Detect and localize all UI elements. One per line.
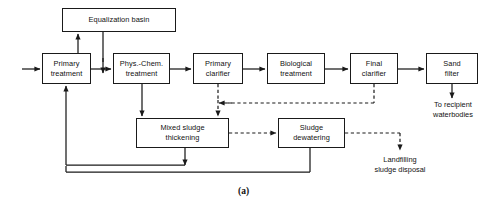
node-label-line: Phys.-Chem.: [120, 59, 163, 69]
node-label-line: dewatering: [293, 133, 330, 143]
node-label-line: clarifier: [362, 69, 386, 79]
figure-caption: (a): [238, 186, 249, 196]
node-biological-treatment[interactable]: Biological treatment: [267, 53, 325, 84]
node-label-line: Primary: [205, 59, 231, 69]
node-primary-clarifier[interactable]: Primary clarifier: [193, 53, 243, 84]
node-label-line: treatment: [51, 69, 83, 79]
node-primary-treatment[interactable]: Primary treatment: [42, 53, 91, 84]
process-flow-diagram: Equalization basin Primary treatment Phy…: [0, 0, 497, 210]
node-label-line: Sand: [443, 59, 460, 69]
node-label-line: Equalization basin: [89, 15, 150, 25]
node-label-line: filter: [445, 69, 459, 79]
node-label-line: Biological: [280, 59, 312, 69]
node-label-line: treatment: [126, 69, 158, 79]
node-label-line: Primary: [54, 59, 80, 69]
label-line: Landfilling: [357, 155, 443, 165]
label-to-recipient-waterbodies: To recipient waterbodies: [412, 100, 494, 120]
node-label-line: Sludge: [300, 123, 323, 133]
label-landfilling-sludge-disposal: Landfilling sludge disposal: [357, 155, 443, 175]
node-label-line: clarifier: [206, 69, 230, 79]
node-sand-filter[interactable]: Sand filter: [426, 53, 478, 84]
node-label-line: Mixed sludge: [160, 123, 204, 133]
label-line: sludge disposal: [357, 165, 443, 175]
node-label-line: Final: [366, 59, 382, 69]
label-line: To recipient: [412, 100, 494, 110]
node-sludge-dewatering[interactable]: Sludge dewatering: [278, 118, 345, 148]
node-label-line: thickening: [166, 133, 200, 143]
node-mixed-sludge-thickening[interactable]: Mixed sludge thickening: [136, 118, 229, 148]
node-equalization-basin[interactable]: Equalization basin: [62, 8, 176, 32]
node-final-clarifier[interactable]: Final clarifier: [350, 53, 398, 84]
label-line: waterbodies: [412, 110, 494, 120]
node-phys-chem-treatment[interactable]: Phys.-Chem. treatment: [113, 53, 170, 84]
node-label-line: treatment: [280, 69, 312, 79]
